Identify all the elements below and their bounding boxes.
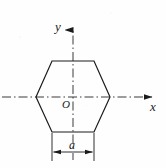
figure-canvas xyxy=(0,0,166,168)
hexagon-figure: y x O a xyxy=(0,0,166,168)
y-axis-label: y xyxy=(55,20,61,33)
x-axis-label: x xyxy=(150,100,156,113)
dimension-label: a xyxy=(69,139,75,151)
origin-label: O xyxy=(62,99,70,110)
